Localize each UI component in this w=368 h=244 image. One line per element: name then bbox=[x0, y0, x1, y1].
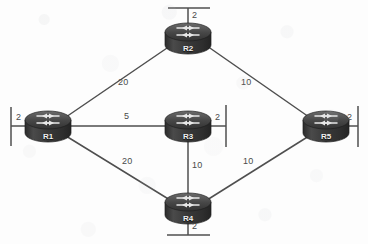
router-r2[interactable] bbox=[165, 23, 211, 54]
stub-label-r4: 2 bbox=[192, 222, 197, 231]
cost-label-r1-r4: 20 bbox=[122, 157, 132, 166]
topology-svg bbox=[0, 0, 368, 244]
router-r4[interactable] bbox=[165, 193, 211, 224]
cost-label-r4-r5: 10 bbox=[243, 157, 253, 166]
router-r5[interactable] bbox=[303, 111, 349, 142]
link-r1-r4 bbox=[66, 136, 170, 200]
stub-label-r5: 2 bbox=[347, 113, 352, 122]
cost-label-r1-r3: 5 bbox=[124, 112, 129, 121]
stub-label-r2: 2 bbox=[192, 11, 197, 20]
cost-label-r1-r2: 20 bbox=[118, 78, 128, 87]
link-r4-r5 bbox=[207, 136, 309, 200]
network-diagram-canvas: R1 R2 R3 R4 R5 20 10 5 20 10 10 2 2 2 2 … bbox=[0, 0, 368, 244]
stub-label-r1: 2 bbox=[16, 113, 21, 122]
router-r1[interactable] bbox=[25, 111, 71, 142]
cost-label-r2-r5: 10 bbox=[241, 78, 251, 87]
router-r3[interactable] bbox=[165, 111, 211, 142]
stub-label-r3: 2 bbox=[215, 113, 220, 122]
cost-label-r3-r4: 10 bbox=[192, 161, 202, 170]
link-r2-r5 bbox=[207, 46, 309, 117]
